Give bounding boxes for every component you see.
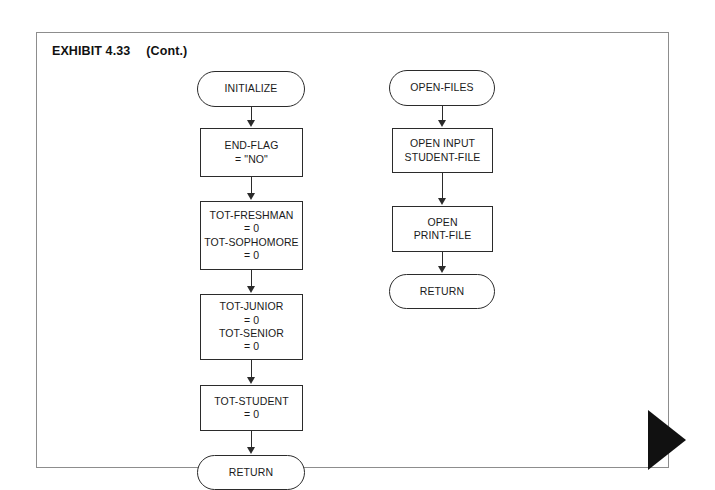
connector-tot-junior-to-tot-student [251,360,252,378]
flow-node-line: TOT-JUNIOR [220,300,284,313]
flow-node-initialize: INITIALIZE [197,71,305,107]
flow-node-line: = 0 [244,249,259,262]
connector-open-files-to-open-input [442,106,443,121]
flow-node-tot-junior-senior: TOT-JUNIOR = 0 TOT-SENIOR = 0 [200,294,303,360]
arrow-head-icon [247,286,255,293]
arrow-head-icon [247,120,255,127]
connector-tot-student-to-return [251,431,252,448]
flow-node-line: OPEN INPUT [410,137,475,150]
flow-node-line: RETURN [420,285,464,298]
arrow-head-icon [438,120,446,127]
flow-node-tot-student: TOT-STUDENT = 0 [200,385,303,431]
connector-open-print-to-return [442,252,443,267]
connector-end-flag-to-tot-freshman [251,177,252,194]
connector-tot-freshman-to-tot-junior [251,270,252,287]
flow-node-line: END-FLAG [225,139,279,152]
flow-node-return-initialize: RETURN [197,455,305,490]
flow-node-line: TOT-STUDENT [214,395,288,408]
connector-initialize-to-end-flag [251,107,252,121]
flow-node-return-open-files: RETURN [389,274,495,309]
flow-node-open-files: OPEN-FILES [389,70,495,106]
flow-node-line: = 0 [244,314,259,327]
connector-open-input-to-open-print [442,173,443,199]
flow-node-line: OPEN [427,216,457,229]
flow-node-line: = 0 [244,340,259,353]
flow-node-line: TOT-SOPHOMORE [204,236,298,249]
exhibit-page-frame: EXHIBIT 4.33(Cont.) INITIALIZE END-FLAG … [36,32,669,468]
arrow-head-icon [247,193,255,200]
arrow-head-icon [438,198,446,205]
arrow-head-icon [247,377,255,384]
flow-node-line: PRINT-FILE [414,229,472,242]
flow-node-line: TOT-FRESHMAN [210,209,294,222]
flow-node-open-input-student-file: OPEN INPUT STUDENT-FILE [392,128,493,173]
flowchart-canvas: INITIALIZE END-FLAG = "NO" TOT-FRESHMAN … [37,33,670,469]
page-turn-marker-icon [648,410,686,470]
arrow-head-icon [438,266,446,273]
flow-node-line: RETURN [229,466,273,479]
flow-node-end-flag: END-FLAG = "NO" [200,128,303,177]
flow-node-line: = 0 [244,222,259,235]
flow-node-line: = "NO" [235,153,268,166]
flow-node-line: STUDENT-FILE [405,151,481,164]
arrow-head-icon [247,447,255,454]
flow-node-line: OPEN-FILES [410,81,473,94]
flow-node-line: TOT-SENIOR [219,327,284,340]
flow-node-open-print-file: OPEN PRINT-FILE [392,206,493,252]
flow-node-tot-freshman-sophomore: TOT-FRESHMAN = 0 TOT-SOPHOMORE = 0 [200,201,303,270]
flow-node-line: = 0 [244,408,259,421]
flow-node-line: INITIALIZE [225,82,278,95]
